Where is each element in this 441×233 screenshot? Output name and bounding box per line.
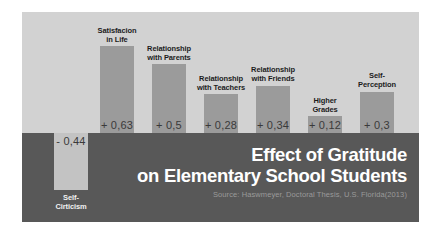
bar-value-self-cirticism: - 0,44 (54, 135, 88, 147)
bar-label-line: with Teachers (197, 83, 245, 92)
bar-satisfacion-in-life: + 0,63 (100, 46, 134, 133)
bar-relationship-with-teachers: + 0,28 (204, 94, 238, 133)
bar-self-cirticism: - 0,44 (54, 133, 88, 190)
bar-higher-grades: + 0,12 (308, 116, 342, 133)
bar-value-relationship-with-friends: + 0,34 (256, 119, 290, 131)
bar-label-line: Grades (312, 105, 337, 114)
bar-label-line: in Life (106, 35, 127, 44)
infographic-canvas: - 0,44 Self- Cirticism + 0,63 Satisfacio… (0, 0, 441, 233)
bar-self-perception: + 0,3 (360, 92, 394, 133)
bar-label-line: Relationship (251, 65, 295, 74)
bar-label-line: Higher (313, 96, 336, 105)
bar-label-line: with Friends (252, 74, 295, 83)
bar-label-line: Relationship (147, 44, 191, 53)
bar-label-line: Cirticism (55, 202, 86, 211)
bar-value-relationship-with-teachers: + 0,28 (204, 119, 238, 131)
bar-label-line: Relationship (199, 74, 243, 83)
bar-value-relationship-with-parents: + 0,5 (152, 119, 186, 131)
headline-line-2: on Elementary School Students (97, 165, 407, 186)
bar-label-higher-grades: Higher Grades (300, 96, 350, 114)
bar-value-satisfacion-in-life: + 0,63 (100, 119, 134, 131)
bar-label-relationship-with-parents: Relationship with Parents (139, 44, 199, 62)
chart-source: Source: Haswmeyer, Doctoral Thesis, U.S.… (97, 190, 407, 199)
bar-label-line: Self- (369, 71, 385, 80)
gratitude-chart: - 0,44 Self- Cirticism + 0,63 Satisfacio… (22, 12, 419, 222)
bar-label-satisfacion-in-life: Satisfacion in Life (88, 26, 146, 44)
bar-value-higher-grades: + 0,12 (308, 119, 342, 131)
bar-label-self-perception: Self- Perception (349, 71, 405, 89)
bar-value-self-perception: + 0,3 (360, 119, 394, 131)
chart-headline: Effect of Gratitude on Elementary School… (97, 144, 407, 199)
bar-label-relationship-with-friends: Relationship with Friends (243, 65, 303, 83)
headline-line-1: Effect of Gratitude (97, 144, 407, 165)
bar-label-self-cirticism: Self- Cirticism (44, 193, 98, 211)
bar-label-line: Satisfacion (98, 26, 137, 35)
bar-label-line: Self- (63, 193, 79, 202)
bar-relationship-with-parents: + 0,5 (152, 64, 186, 133)
bar-label-line: Perception (358, 80, 396, 89)
bar-relationship-with-friends: + 0,34 (256, 86, 290, 133)
bar-label-line: with Parents (147, 53, 190, 62)
